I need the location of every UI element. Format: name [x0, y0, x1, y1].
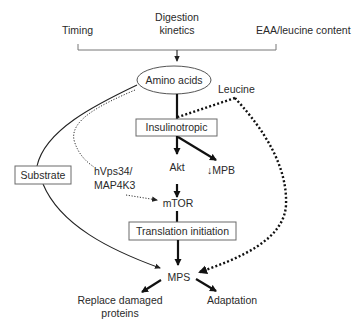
hvps34-label-line1: hVps34/: [94, 165, 133, 177]
input-bracket: [78, 44, 276, 50]
input-digestion-label-line1: Digestion: [155, 11, 199, 23]
hvps34-to-mtor-edge: [126, 195, 157, 200]
mps-to-replace-edge: [142, 280, 161, 292]
mps-to-adaptation-edge: [196, 279, 216, 291]
leucine-label: Leucine: [218, 83, 255, 95]
substrate-label: Substrate: [21, 169, 66, 181]
mtor-label: mTOR: [163, 197, 194, 209]
hvps34-label-line2: MAP4K3: [94, 179, 136, 191]
insulinotropic-to-mpb-edge: [178, 137, 216, 160]
adaptation-label: Adaptation: [207, 294, 257, 306]
amino-acids-label: Amino acids: [145, 74, 202, 86]
input-timing-label: Timing: [62, 24, 93, 36]
akt-label: Akt: [169, 161, 184, 173]
input-eaa-leucine-label: EAA/leucine content: [256, 24, 351, 36]
mps-label: MPS: [168, 271, 191, 283]
insulinotropic-label: Insulinotropic: [146, 121, 208, 133]
translation-initiation-label: Translation initiation: [136, 225, 229, 237]
amino-to-substrate-edge: [37, 85, 137, 166]
replace-damaged-label-line2: proteins: [101, 307, 138, 319]
mpb-label: ↓MPB: [207, 164, 235, 176]
input-digestion-label-line2: kinetics: [159, 24, 194, 36]
replace-damaged-label-line1: Replace damaged: [77, 294, 162, 306]
protein-synthesis-diagram: Timing Digestion kinetics EAA/leucine co…: [0, 0, 362, 329]
leucine-to-insulinotropic-edge: [178, 98, 235, 117]
